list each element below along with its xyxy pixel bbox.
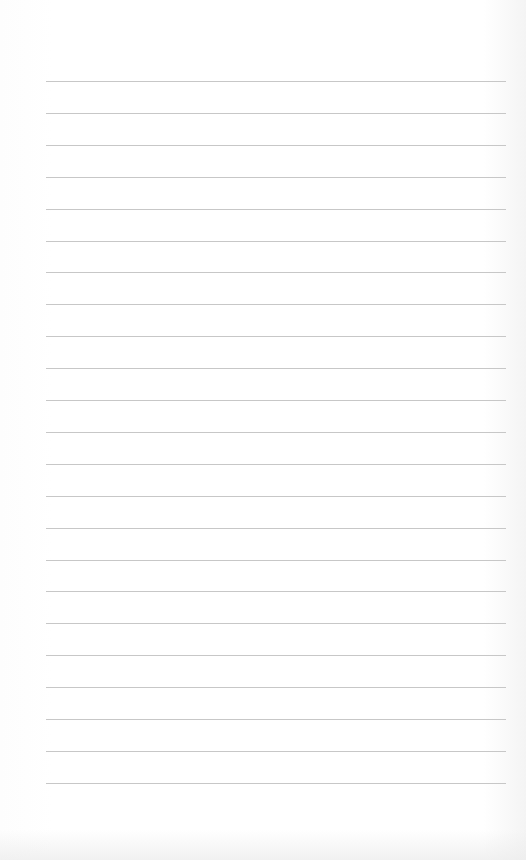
ruled-line bbox=[46, 241, 506, 242]
ruled-line bbox=[46, 560, 506, 561]
ruled-line bbox=[46, 623, 506, 624]
ruled-line bbox=[46, 591, 506, 592]
ruled-line bbox=[46, 368, 506, 369]
bottom-shadow bbox=[0, 830, 526, 860]
ruled-line bbox=[46, 751, 506, 752]
ruled-line bbox=[46, 719, 506, 720]
lined-paper-sheet bbox=[0, 0, 526, 860]
ruled-line bbox=[46, 655, 506, 656]
ruled-line bbox=[46, 432, 506, 433]
ruled-line bbox=[46, 304, 506, 305]
ruled-line bbox=[46, 177, 506, 178]
ruled-line bbox=[46, 272, 506, 273]
ruled-line bbox=[46, 528, 506, 529]
ruled-line bbox=[46, 336, 506, 337]
ruled-line bbox=[46, 687, 506, 688]
ruled-line bbox=[46, 496, 506, 497]
ruled-line bbox=[46, 209, 506, 210]
ruled-line bbox=[46, 81, 506, 82]
ruled-line bbox=[46, 113, 506, 114]
ruled-line bbox=[46, 464, 506, 465]
ruled-line bbox=[46, 145, 506, 146]
ruled-line bbox=[46, 400, 506, 401]
ruled-line bbox=[46, 783, 506, 784]
